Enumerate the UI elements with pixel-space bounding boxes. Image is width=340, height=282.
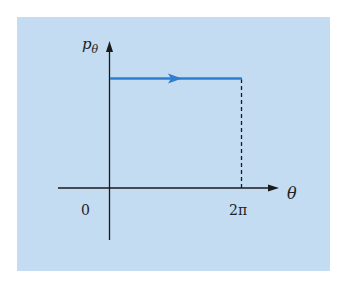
x-axis-label: θ xyxy=(287,184,297,203)
x-tick-label-2pi: 2π xyxy=(229,202,247,218)
y-axis-label: pθ xyxy=(82,35,99,56)
y-axis-arrow-icon xyxy=(106,41,113,52)
phase-space-diagram: pθ θ 0 2π xyxy=(0,0,340,282)
x-tick-label-0: 0 xyxy=(81,202,90,218)
x-axis-arrow-icon xyxy=(268,185,279,192)
